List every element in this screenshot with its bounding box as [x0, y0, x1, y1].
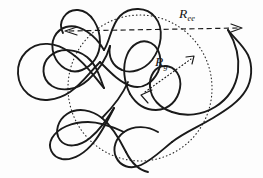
end-to-end-label: Ree	[179, 7, 195, 21]
polymer-chain-path-6	[130, 66, 180, 112]
polymer-chain-path-2	[104, 9, 161, 72]
polymer-chain-path	[52, 10, 104, 71]
end-to-end-symbol: R	[179, 6, 187, 21]
polymer-chain-group	[18, 9, 251, 172]
polymer-chain-path-7	[172, 30, 238, 115]
gyration-envelope-ellipse	[59, 6, 222, 171]
radius-of-gyration-label: Rg	[155, 55, 168, 69]
end-to-end-measure	[65, 24, 242, 35]
figure-canvas	[0, 0, 263, 178]
polymer-coil-figure: Ree Rg	[0, 0, 263, 178]
polymer-chain-path-4	[18, 44, 104, 100]
radius-of-gyration-symbol: R	[155, 54, 163, 69]
end-to-end-dashed-line	[69, 28, 238, 31]
radius-of-gyration-arrowhead-upper-right	[186, 56, 194, 64]
polymer-chain-path-10	[50, 108, 124, 159]
radius-of-gyration-subscript: g	[164, 62, 168, 71]
polymer-chain-path-13	[102, 82, 128, 118]
end-to-end-subscript: ee	[188, 14, 196, 23]
